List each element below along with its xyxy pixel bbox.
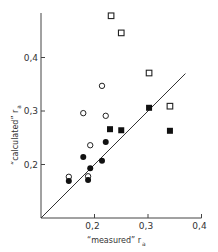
marker-circle-open — [99, 83, 104, 88]
x-axis-label: “measured” ra — [87, 236, 146, 247]
marker-square-filled — [107, 126, 113, 132]
marker-circle-filled — [85, 177, 91, 183]
marker-square-open — [108, 13, 114, 19]
marker-circle-open — [81, 110, 86, 115]
marker-circle-filled — [87, 165, 93, 171]
x-tick-label: 0,2 — [85, 221, 99, 231]
reference-line-y-equals-x — [41, 74, 185, 218]
marker-circle-open — [103, 113, 108, 118]
marker-square-filled — [167, 128, 173, 134]
marker-square-open — [146, 70, 152, 76]
data-points — [66, 13, 173, 184]
y-tick-label: 0,3 — [24, 106, 38, 116]
marker-square-open — [118, 30, 124, 36]
marker-circle-filled — [103, 139, 109, 145]
y-axis-label: “calculated” ra — [11, 105, 22, 165]
marker-circle-filled — [66, 178, 72, 184]
marker-circle-filled — [99, 158, 105, 164]
identity-line — [41, 74, 185, 218]
marker-square-open — [167, 103, 173, 109]
marker-circle-filled — [80, 154, 86, 160]
y-tick-label: 0,2 — [24, 160, 38, 170]
marker-square-filled — [118, 127, 124, 133]
axes: 0,20,30,40,20,30,4 — [24, 13, 207, 231]
marker-square-filled — [146, 105, 152, 111]
y-tick-label: 0,4 — [24, 53, 39, 63]
scatter-chart: 0,20,30,40,20,30,4 “measured” ra “calcul… — [0, 0, 218, 252]
x-tick-label: 0,3 — [139, 221, 153, 231]
marker-circle-open — [88, 143, 93, 148]
x-tick-label: 0,4 — [192, 221, 207, 231]
